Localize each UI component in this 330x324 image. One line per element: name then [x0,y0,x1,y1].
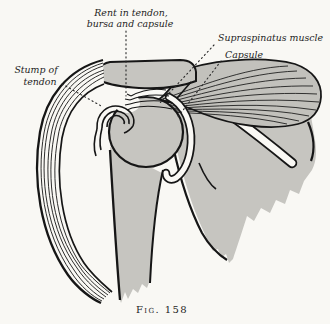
shoulder-rotator-cuff-figure: Rent in tendon, bursa and capsule Supras… [0,0,330,324]
label-capsule: Capsule [225,49,264,60]
label-rent-line2: bursa and capsule [87,18,174,29]
label-rent-line1: Rent in tendon, [93,7,167,18]
label-stump-line2: tendon [23,76,56,87]
figure-caption: Fig. 158 [136,304,188,315]
book-page: Rent in tendon, bursa and capsule Supras… [0,0,330,324]
label-supraspinatus: Supraspinatus muscle [218,32,324,43]
label-stump-line1: Stump of [14,64,59,75]
